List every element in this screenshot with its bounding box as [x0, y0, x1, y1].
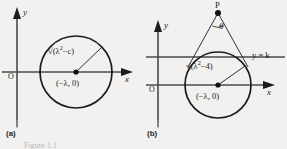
panel-a-radius-label: √(λ2−c) [48, 45, 74, 55]
figure-container: y x O √(λ2−c) (−λ, 0) (a) y x O P θ √(λ2… [0, 0, 287, 149]
panel-b-angle-label: θ [219, 22, 223, 31]
panel-a-center-point [73, 69, 78, 74]
panel-b-radius-line [218, 66, 245, 85]
panel-b-radius-label-prefix: √(λ [186, 61, 198, 71]
panel-b-line-label-rhs: k [265, 50, 269, 60]
panel-a-radius-label-suffix: −c) [63, 46, 74, 56]
panel-b-line-label: y = k [252, 51, 270, 60]
panel-b-center-point [215, 82, 220, 87]
panel-a-x-axis-label: x [125, 75, 129, 84]
panel-a-caption: (a) [6, 129, 16, 138]
panel-b-radius-label: √(λ2−4) [186, 60, 213, 70]
panel-b-caption: (b) [147, 129, 157, 138]
panel-a-radius-label-prefix: √(λ [48, 46, 60, 56]
panel-b-line-label-equals: = [258, 50, 263, 60]
panel-a-y-axis-label: y [23, 8, 27, 17]
figure-drawing [0, 0, 287, 149]
panel-a-y-axis-arrowhead [13, 7, 21, 19]
panel-b-radius-label-suffix: −4) [201, 61, 213, 71]
panel-a-drawing [2, 7, 133, 128]
panel-b-point-p-label: P [215, 1, 220, 10]
panel-b-line-label-lhs: y [252, 50, 256, 60]
panel-a-radius-line [76, 47, 102, 72]
panel-b-y-axis-label: y [164, 21, 168, 30]
panel-b-origin-label: O [149, 86, 155, 94]
panel-a-origin-label: O [8, 73, 14, 81]
panel-b-x-axis-label: x [267, 88, 271, 97]
panel-b-point-p [215, 10, 221, 16]
figure-caption: Figure 1.1 [24, 141, 57, 149]
panel-b-y-axis-arrowhead [154, 20, 162, 32]
panel-b-center-label: (−λ, 0) [196, 92, 219, 101]
panel-a-center-label: (−λ, 0) [56, 79, 79, 88]
panel-b-tangent-left [188, 13, 218, 67]
